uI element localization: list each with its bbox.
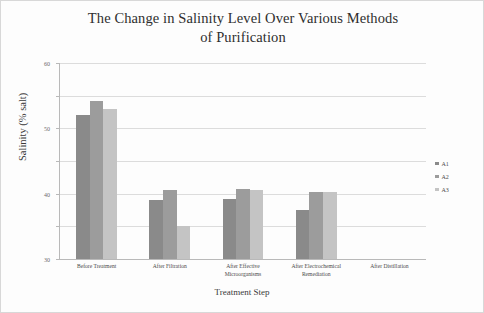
x-axis-category-label: Before Treatment: [60, 263, 133, 271]
legend-swatch-icon: [435, 162, 439, 166]
y-axis-title: Salinity (% salt): [17, 93, 28, 161]
legend-item-a1[interactable]: A1: [435, 157, 479, 170]
chart-title: The Change in Salinity Level Over Variou…: [41, 9, 445, 47]
y-axis-tick-label: 30: [44, 257, 50, 263]
chart-figure: The Change in Salinity Level Over Variou…: [0, 0, 484, 313]
y-axis-tick: 40: [56, 128, 60, 129]
bar-group: [76, 63, 117, 259]
legend-item-a3[interactable]: A3: [435, 183, 479, 196]
legend-item-label: A2: [442, 174, 449, 180]
y-axis-tick-label: 60: [44, 61, 50, 67]
bar-a3: [323, 192, 337, 259]
bar-group: [369, 63, 410, 259]
bar-a3: [177, 226, 191, 259]
bar-a1: [149, 200, 163, 259]
x-axis-category-label: After Filtration: [133, 263, 206, 271]
y-axis-tick-label: 40: [44, 192, 50, 198]
chart-title-line-1: The Change in Salinity Level Over Variou…: [41, 9, 445, 28]
legend-swatch-icon: [435, 188, 439, 192]
x-axis-line: [60, 259, 426, 260]
bar-a2: [90, 101, 104, 259]
bar-group: [223, 63, 264, 259]
x-axis-category-label: After Electrochemical Remediation: [280, 263, 353, 278]
x-axis-title: Treatment Step: [59, 287, 425, 297]
y-axis-tick: 30: [56, 161, 60, 162]
bar-group: [296, 63, 337, 259]
y-axis-tick: 50: [56, 96, 60, 97]
bar-a2: [236, 189, 250, 259]
bar-a2: [309, 192, 323, 259]
legend-item-a2[interactable]: A2: [435, 170, 479, 183]
x-axis-category-label: After Distillation: [353, 263, 426, 271]
bar-a1: [296, 210, 310, 259]
y-axis-tick-label: 50: [44, 126, 50, 132]
bar-a1: [223, 199, 237, 259]
legend-item-label: A3: [442, 187, 449, 193]
bar-a3: [103, 109, 117, 259]
legend-swatch-icon: [435, 175, 439, 179]
y-axis-tick: 20: [56, 194, 60, 195]
legend-item-label: A1: [442, 161, 449, 167]
x-axis-category-label: After Effective Microorganisms: [206, 263, 279, 278]
chart-title-line-2: of Purification: [41, 28, 445, 47]
plot-area: 0102030405060 Before TreatmentAfter Filt…: [59, 63, 425, 259]
bar-a2: [163, 190, 177, 259]
y-axis-tick: 10: [56, 226, 60, 227]
bar-group: [149, 63, 190, 259]
bar-a1: [76, 115, 90, 259]
chart-legend: A1A2A3: [435, 157, 479, 196]
bar-a3: [250, 190, 264, 259]
y-axis-tick: 60: [56, 63, 60, 64]
